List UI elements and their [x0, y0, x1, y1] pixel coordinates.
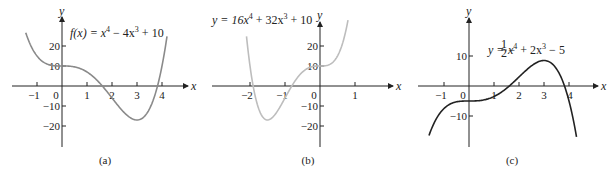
y-tick-label: −20 — [301, 120, 319, 132]
svg-text:2: 2 — [501, 46, 507, 60]
figure-canvas: x y −1 0 1 2 3 4 20 10 −10 −20 f(x — [0, 0, 615, 177]
x-ticks: −2 −1 0 1 — [241, 82, 358, 101]
panel-c: x y −1 0 1 2 3 4 10 −10 y = − 1 — [418, 4, 607, 167]
svg-text:x4 + 2x3 − 5: x4 + 2x3 − 5 — [507, 42, 565, 57]
y-tick-label: −10 — [43, 100, 61, 112]
x-ticks: −1 0 1 2 3 4 — [435, 82, 573, 101]
equation-label: y = − 1 2 x4 + 2x3 − 5 — [487, 37, 565, 60]
y-tick-label: −20 — [43, 120, 61, 132]
x-tick-label: −1 — [28, 89, 40, 101]
equation-label: f(x) = x4 − 4x3 + 10 — [70, 25, 164, 40]
panel-caption: (a) — [99, 154, 112, 167]
x-tick-label: −2 — [241, 89, 253, 101]
x-tick-label: 3 — [541, 89, 547, 101]
x-tick-label: 1 — [352, 89, 358, 101]
y-tick-label: 20 — [49, 40, 61, 52]
x-tick-label: 3 — [134, 89, 140, 101]
curve-b — [247, 20, 349, 120]
x-axis-label: x — [395, 79, 402, 93]
panel-a: x y −1 0 1 2 3 4 20 10 −10 −20 f(x — [12, 4, 197, 167]
x-axis-label: x — [600, 79, 607, 93]
x-tick-label: −1 — [435, 89, 447, 101]
x-tick-label: 2 — [516, 89, 522, 101]
x-axis-label: x — [190, 79, 197, 93]
y-axis-label: y — [465, 4, 472, 18]
x-ticks: −1 0 1 2 3 4 — [28, 82, 165, 101]
y-axis-label: y — [58, 4, 65, 18]
y-tick-label: 10 — [456, 50, 468, 62]
y-tick-label: −10 — [301, 100, 319, 112]
y-axis-label: y — [316, 8, 323, 22]
y-tick-label: −10 — [450, 110, 468, 122]
panel-caption: (b) — [302, 154, 315, 167]
x-tick-label: 0 — [460, 89, 466, 101]
x-tick-label: 1 — [84, 89, 90, 101]
equation-label: y = 16x4 + 32x3 + 10 — [211, 12, 312, 27]
curve-c — [429, 61, 577, 137]
x-tick-label: 4 — [159, 89, 165, 101]
panel-b: x y −2 −1 0 1 20 10 −10 −20 y = 16x4 + 3… — [211, 8, 402, 167]
y-tick-label: 20 — [307, 40, 319, 52]
panel-caption: (c) — [506, 154, 519, 167]
